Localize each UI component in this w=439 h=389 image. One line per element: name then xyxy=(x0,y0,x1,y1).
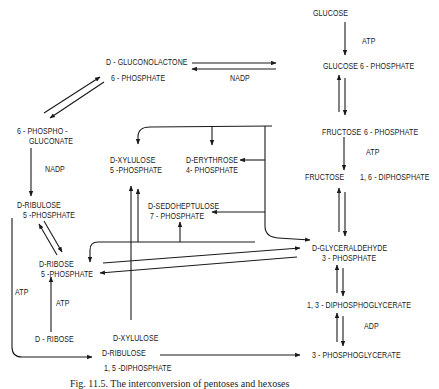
cofactor-atp-ribose: ATP xyxy=(56,299,69,309)
node-erythrose-4p-2: 4- PHOSPHATE xyxy=(186,166,238,176)
cofactor-nadp-top: NADP xyxy=(230,74,250,84)
node-ribose: D - RIBOSE xyxy=(35,335,74,345)
node-6-phosphogluconate-1: 6 - PHOSPHO - xyxy=(17,127,68,137)
arrow-gap-to-ribose5p xyxy=(100,257,297,273)
bracket-top xyxy=(138,126,272,144)
node-glucose-6-phosphate: GLUCOSE 6 - PHOSPHATE xyxy=(323,62,414,72)
node-ribulose-15dp-1: D-RIBULOSE xyxy=(102,349,146,359)
node-fructose-16dp-b: 1, 6 - DIPHOSPHATE xyxy=(360,173,429,183)
arrow-6pg-to-gluconolactone xyxy=(44,77,100,113)
node-xylulose-5p-1: D-XYLULOSE xyxy=(110,156,155,166)
cofactor-atp-fructose: ATP xyxy=(366,148,379,158)
node-erythrose-4p-1: D-ERYTHROSE xyxy=(186,156,238,166)
node-gap-2: 3 - PHOSPHATE xyxy=(322,254,376,264)
node-sedoheptulose-7p-2: 7 - PHOSPHATE xyxy=(150,212,204,222)
node-gluconolactone-2: 6 - PHOSPHATE xyxy=(111,74,165,84)
node-ribulose-15dp-2: 1, 5 -DIPHOSPHATE xyxy=(104,364,171,374)
node-ribose-5p-1: D-RIBOSE xyxy=(39,260,74,270)
cofactor-adp: ADP xyxy=(364,322,379,332)
cofactor-atp-glucose: ATP xyxy=(362,37,375,47)
figure-caption: Fig. 11.5. The interconversion of pentos… xyxy=(70,378,289,389)
cofactor-nadp-left: NADP xyxy=(45,165,65,175)
arrow-ribose5p-to-gap xyxy=(103,248,300,263)
node-ribulose-5p-1: D-RIBULOSE xyxy=(17,201,61,211)
node-3-phosphoglycerate: 3 - PHOSPHOGLYCERATE xyxy=(312,351,401,361)
node-6-phosphogluconate-2: GLUCONATE xyxy=(29,137,73,147)
node-fructose-16dp-a: FRUCTOSE xyxy=(305,173,344,183)
bracket-ribose5p xyxy=(90,242,255,262)
cofactor-atp-left: ATP xyxy=(15,288,28,298)
trunk-line xyxy=(265,126,310,240)
node-fructose-6p-b: 6 - PHOSPHATE xyxy=(364,128,418,138)
node-xylulose-5p-2: 5 -PHOSPHATE xyxy=(110,166,162,176)
node-gap-1: D-GLYCERALDEHYDE xyxy=(312,244,387,254)
node-fructose-6p-a: FRUCTOSE xyxy=(322,128,361,138)
node-ribulose-5p-2: 5 -PHOSPHATE xyxy=(23,211,75,221)
node-glucose: GLUCOSE xyxy=(313,9,348,19)
node-gluconolactone-1: D - GLUCONOLACTONE xyxy=(106,58,188,68)
node-ribose-5p-2: 5 -PHOSPHATE xyxy=(41,270,93,280)
arrow-gluconolactone-to-6pg xyxy=(50,82,104,118)
node-sedoheptulose-7p-1: D-SEDOHEPTULOSE xyxy=(148,202,219,212)
node-xylulose: D-XYLULOSE xyxy=(113,334,158,344)
node-13-diphosphoglycerate: 1, 3 - DIPHOSPHOGLYCERATE xyxy=(307,301,411,311)
